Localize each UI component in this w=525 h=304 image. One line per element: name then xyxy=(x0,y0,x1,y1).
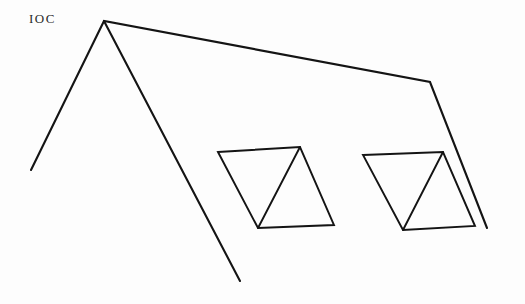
line-drawing xyxy=(0,0,525,304)
right-triangle-left-edge xyxy=(403,152,443,230)
tent-outline xyxy=(31,21,487,228)
left-triangle-left-edge xyxy=(258,147,300,228)
figure-label: IOC xyxy=(29,12,56,25)
left-parallelogram xyxy=(218,147,334,228)
figure-canvas: IOC xyxy=(0,0,525,304)
right-parallelogram xyxy=(363,152,475,230)
